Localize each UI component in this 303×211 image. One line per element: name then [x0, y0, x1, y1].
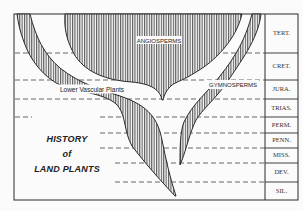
history-of-land-plants-diagram: ANGIOSPERMS GYMNOSPERMS Lower Vascular P…	[0, 0, 303, 211]
period-label-devonian: DEV.	[265, 168, 298, 175]
period-label-permian: PERM.	[265, 121, 298, 128]
period-label-triassic: TRIAS.	[265, 104, 298, 111]
angiosperms-label: ANGIOSPERMS	[137, 38, 182, 44]
period-label-silurian: SIL.	[265, 187, 298, 194]
title-line-2: of	[22, 149, 112, 159]
title-line-3: LAND PLANTS	[22, 164, 112, 174]
period-label-jurassic: JURA.	[265, 85, 298, 92]
period-column-dividers	[265, 53, 298, 182]
period-label-tertiary: TERT.	[265, 29, 298, 36]
period-label-cretaceous: CRET.	[265, 62, 298, 69]
title-line-1: HISTORY	[22, 134, 112, 144]
gymnosperms-label: GYMNOSPERMS	[209, 82, 257, 88]
period-label-mississippian: MISS.	[265, 151, 298, 158]
diagram-svg: ANGIOSPERMS GYMNOSPERMS Lower Vascular P…	[0, 0, 303, 211]
lower-vascular-plants-label: Lower Vascular Plants	[60, 86, 125, 93]
period-label-pennsylvanian: PENN.	[265, 136, 298, 143]
